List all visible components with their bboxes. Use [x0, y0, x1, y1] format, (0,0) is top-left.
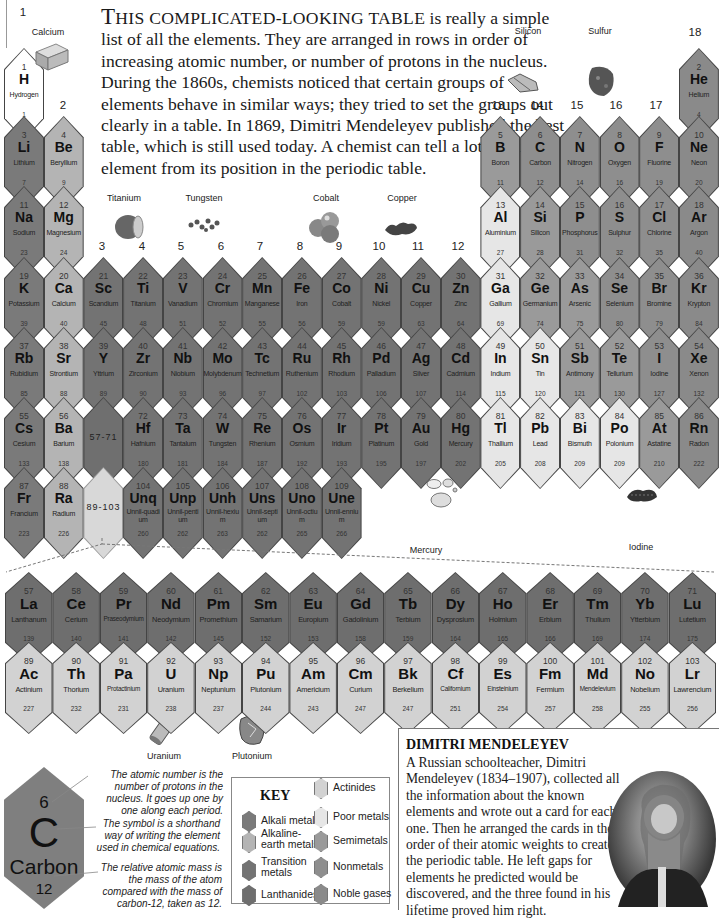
legend-key: KEY Alkali metalsAlkaline-earth metalsTr…: [231, 777, 390, 904]
portrait-figure-icon: [608, 771, 716, 907]
mendeleyev-portrait-image: [608, 771, 716, 907]
key-label-transition: Transition metals: [261, 856, 319, 878]
key-swatch-transition-icon: [242, 860, 256, 881]
key-swatch-alkali-icon: [242, 811, 256, 832]
key-label-noble-gas: Noble gases: [333, 888, 408, 899]
key-label-alkaline-earth: Alkaline-earth metals: [261, 828, 319, 850]
key-swatch-alkaline-earth-icon: [242, 832, 256, 853]
bio-title: DIMITRI MENDELEYEV: [406, 737, 569, 753]
key-label-poor-metal: Poor metals: [333, 811, 408, 822]
key-swatch-actinide-icon: [314, 778, 328, 799]
key-swatch-lanthanide-icon: [242, 885, 256, 906]
key-label-semimetal: Semimetals: [333, 835, 408, 846]
key-title: KEY: [260, 788, 290, 804]
annotation-relative-atomic-mass: The relative atomic mass is the mass of …: [88, 862, 222, 910]
annotation-symbol: The symbol is a shorthand way of writing…: [88, 818, 220, 854]
bio-body: A Russian schoolteacher, Dimitri Mendele…: [406, 755, 621, 919]
key-label-actinide: Actinides: [333, 782, 408, 793]
key-label-nonmetal: Nonmetals: [333, 861, 408, 872]
annotation-atomic-number: The atomic number is the number of proto…: [88, 769, 223, 817]
